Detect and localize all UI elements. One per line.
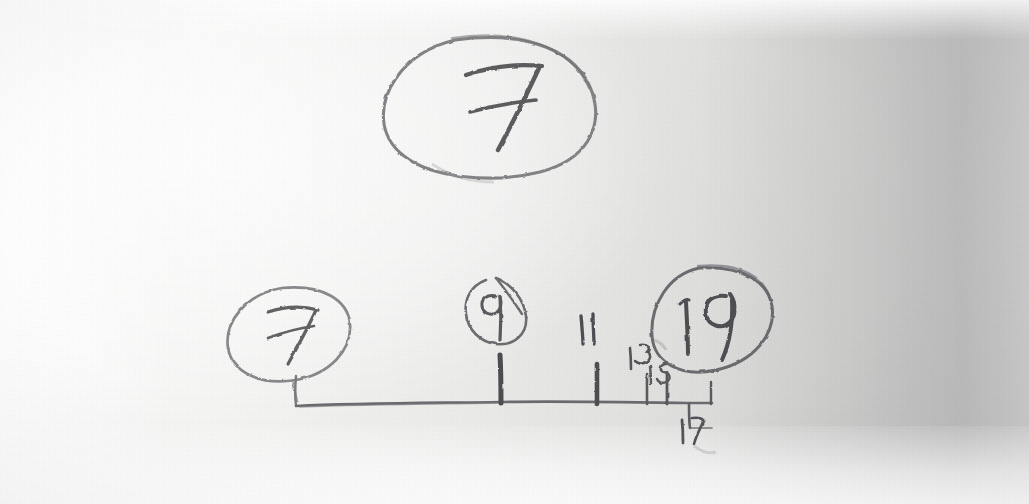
tick-11[interactable]: 11 — [591, 360, 605, 406]
circled-nineteen-value: 19 — [652, 266, 653, 267]
tick-17-label: 17 — [685, 380, 686, 381]
tick-label-17-text: 17 — [678, 414, 679, 415]
tick-label-17: 17 — [678, 414, 708, 448]
tick-13-label: 13 — [642, 372, 643, 373]
circled-nineteen[interactable]: 19 — [652, 266, 772, 370]
tick-label-11: 11 — [576, 310, 602, 350]
connector-nine-to-tick — [494, 340, 508, 404]
tick-label-15: 15 — [648, 362, 674, 388]
tick-label-15-text: 15 — [648, 362, 649, 363]
connector-seven-to-line — [288, 378, 302, 406]
circled-nine[interactable]: 9 — [465, 278, 529, 344]
tick-11-label: 11 — [591, 360, 592, 361]
circled-nine-value: 9 — [465, 278, 466, 279]
tick-label-13-text: 13 — [626, 342, 627, 343]
tick-label-11-text: 11 — [576, 310, 577, 311]
handwritten-sketch-photo: 7 7 9 19 9 11 13 15 17 11 13 15 17 — [0, 0, 1029, 504]
circled-seven-left[interactable]: 7 — [226, 286, 350, 382]
circled-seven-left-value: 7 — [226, 286, 227, 287]
circled-seven-top-value: 7 — [383, 38, 384, 39]
circled-seven-top[interactable]: 7 — [383, 38, 593, 178]
